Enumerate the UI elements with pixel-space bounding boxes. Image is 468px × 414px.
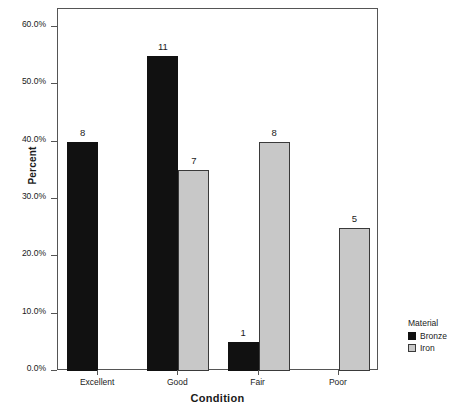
x-axis-tick-mark [177, 370, 178, 375]
bar-chart: Percent 0.0%10.0%20.0%30.0%40.0%50.0%60.… [0, 0, 468, 414]
x-axis-title: Condition [57, 392, 378, 404]
bar-good-iron [178, 170, 209, 371]
y-axis-tick-label: 30.0% [22, 191, 46, 201]
x-axis-tick-label: Good [137, 377, 217, 387]
bar-good-bronze [147, 56, 178, 371]
legend-swatch-iron [408, 344, 416, 352]
legend-items: BronzeIron [408, 331, 466, 353]
bar-value-label: 8 [253, 127, 296, 138]
bar-value-label: 5 [333, 213, 376, 224]
x-axis-tick-mark [97, 370, 98, 375]
x-axis-tick-mark [258, 370, 259, 375]
y-axis-title: Percent [27, 106, 38, 226]
y-axis-tick-label: 10.0% [22, 306, 46, 316]
bar-value-label: 8 [61, 127, 104, 138]
x-axis-tick-label: Poor [298, 377, 378, 387]
x-axis-tick-good: Good [137, 370, 217, 394]
bar-poor-iron [339, 228, 370, 371]
legend-item-iron: Iron [408, 343, 466, 353]
x-axis-tick-excellent: Excellent [57, 370, 137, 394]
x-axis-tick-poor: Poor [298, 370, 378, 394]
legend-item-bronze: Bronze [408, 331, 466, 341]
legend: Material BronzeIron [408, 318, 466, 355]
x-axis-tick-label: Excellent [57, 377, 137, 387]
legend-label: Bronze [420, 331, 447, 341]
legend-title: Material [408, 318, 466, 328]
bar-value-label: 11 [141, 41, 184, 52]
bar-fair-iron [259, 142, 290, 371]
x-axis-tick-label: Fair [218, 377, 298, 387]
x-axis-tick-mark [338, 370, 339, 375]
legend-swatch-bronze [408, 332, 416, 340]
y-axis-tick-label: 60.0% [22, 19, 46, 29]
y-axis-tick-label: 0.0% [27, 363, 46, 373]
bar-value-label: 7 [172, 155, 215, 166]
x-axis-tick-fair: Fair [218, 370, 298, 394]
legend-label: Iron [420, 343, 435, 353]
bar-excellent-bronze [67, 142, 98, 371]
bar-fair-bronze [228, 342, 259, 371]
plot-area: 8117185 [57, 8, 378, 370]
y-axis-tick-label: 20.0% [22, 248, 46, 258]
y-axis-tick-label: 50.0% [22, 76, 46, 86]
y-axis-tick-label: 40.0% [22, 134, 46, 144]
